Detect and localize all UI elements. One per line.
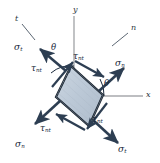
x-axis-label: x (146, 91, 151, 99)
tau-nt-lower-right-label: τnt (92, 115, 103, 125)
sigma-n-arrow-right (99, 68, 124, 91)
sigma-t-lower-right-subscript: t (124, 148, 126, 154)
sigma-n-right-subscript: n (121, 62, 124, 68)
tau-nt-top-label: τnt (73, 52, 84, 62)
t-axis-label: t (15, 15, 18, 23)
tau-nt-top-subscript: nt (78, 55, 84, 61)
sigma-n-lower-left-subscript: n (21, 143, 24, 149)
sigma-n-lower-left-label: σn (15, 140, 25, 150)
tau-nt-lower-left-label: τnt (40, 124, 51, 134)
sigma-t-upper-left-subscript: t (20, 46, 22, 52)
y-axis-label: y (73, 6, 78, 14)
tau-nt-upper-left-subscript: nt (36, 67, 42, 73)
rotated-axis-leaders (22, 24, 128, 46)
sigma-t-upper-left-label: σt (14, 43, 22, 53)
n-axis-label: n (131, 24, 136, 32)
sigma-t-lower-right-label: σt (118, 145, 126, 155)
sigma-n-right-label: σn (115, 59, 125, 69)
tau-nt-upper-left-label: τnt (31, 64, 42, 74)
stress-element-figure: y x n t θ θ σt τnt τnt σn τnt σn τnt σt (0, 0, 160, 163)
tau-nt-lower-left-subscript: nt (45, 127, 51, 133)
n-axis-leader (112, 33, 128, 46)
sigma-t-arrow-upper-left (40, 49, 66, 71)
t-axis-leader (22, 24, 35, 40)
theta-label-upper: θ (51, 43, 56, 52)
theta-label-lower: θ (104, 79, 109, 88)
sigma-n-arrow-lower-left (35, 101, 60, 124)
tau-nt-lower-right-subscript: nt (97, 118, 103, 124)
